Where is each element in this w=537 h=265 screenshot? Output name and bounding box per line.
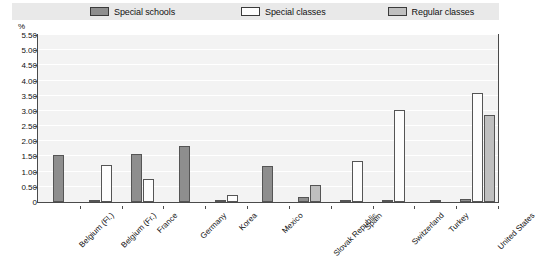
- y-axis-tick-label: 3.50: [7, 91, 37, 100]
- bar[interactable]: [430, 200, 441, 202]
- x-axis-category-label: Spain: [363, 211, 384, 232]
- bar[interactable]: [340, 200, 351, 202]
- bars-layer: [38, 35, 498, 202]
- bar-group: [122, 35, 164, 202]
- bar-group: [163, 35, 205, 202]
- x-axis-tick-mark: [205, 206, 206, 209]
- x-axis-category-label: Germany: [199, 211, 229, 241]
- x-axis-tick-mark: [163, 206, 164, 209]
- x-axis-tick-mark: [247, 206, 248, 209]
- x-axis-category-label: Switzerland: [411, 211, 447, 247]
- bar[interactable]: [298, 197, 309, 202]
- legend-swatch-icon: [241, 7, 260, 16]
- y-axis-tick-label: 5.50: [7, 31, 37, 40]
- legend-label: Special schools: [114, 7, 175, 17]
- bar[interactable]: [227, 195, 238, 202]
- x-axis-tick-mark: [498, 206, 499, 209]
- y-axis-tick-label: 3.00: [7, 106, 37, 115]
- bar[interactable]: [143, 179, 154, 202]
- x-axis-category-label: Belgium (Fl.): [77, 211, 115, 249]
- y-axis-tick-label: 4.50: [7, 61, 37, 70]
- y-axis-tick-label: 1.50: [7, 152, 37, 161]
- x-axis-category-label: Mexico: [280, 211, 304, 235]
- y-axis-tick-label: 4.00: [7, 76, 37, 85]
- bar-group: [247, 35, 289, 202]
- bar[interactable]: [394, 110, 405, 202]
- x-axis-tick-mark: [331, 206, 332, 209]
- y-axis-tick-label: 0: [7, 198, 37, 207]
- x-axis-tick-mark: [456, 206, 457, 209]
- y-axis-tick-label: 2.50: [7, 122, 37, 131]
- legend-label: Special classes: [265, 7, 326, 17]
- chart-legend: Special schoolsSpecial classesRegular cl…: [12, 3, 499, 20]
- bar-group: [38, 35, 80, 202]
- legend-entry[interactable]: Special classes: [241, 7, 326, 17]
- bar[interactable]: [262, 166, 273, 202]
- legend-swatch-icon: [388, 7, 407, 16]
- bar[interactable]: [472, 93, 483, 202]
- x-axis-category-label: Turkey: [447, 211, 470, 234]
- y-axis-tick-label: 0.50: [7, 182, 37, 191]
- y-axis-tick-label: 5.00: [7, 46, 37, 55]
- bar[interactable]: [484, 115, 495, 202]
- x-axis-category-label: United States: [496, 211, 536, 251]
- bar[interactable]: [179, 146, 190, 202]
- bar-group: [289, 35, 331, 202]
- bar-group: [331, 35, 373, 202]
- x-axis-category-label: Korea: [237, 211, 258, 232]
- legend-entry[interactable]: Regular classes: [388, 7, 475, 17]
- bar[interactable]: [89, 200, 100, 202]
- y-axis: 5.505.004.504.003.503.002.502.001.501.00…: [0, 34, 37, 204]
- y-axis-tick-label: 1.00: [7, 167, 37, 176]
- bar-group: [373, 35, 415, 202]
- bar[interactable]: [310, 185, 321, 202]
- legend-swatch-icon: [90, 7, 109, 16]
- legend-label: Regular classes: [412, 7, 475, 17]
- bar[interactable]: [460, 199, 471, 202]
- x-axis-category-label: Belgium (Fr.): [119, 211, 158, 250]
- bar[interactable]: [101, 165, 112, 202]
- bar[interactable]: [352, 161, 363, 202]
- bar-group: [205, 35, 247, 202]
- x-axis-categories: Belgium (Fl.)Belgium (Fr.)FranceGermanyK…: [38, 206, 498, 265]
- bar-group: [456, 35, 498, 202]
- x-axis-tick-mark: [373, 206, 374, 209]
- bar[interactable]: [53, 155, 64, 202]
- y-axis-tick-label: 2.00: [7, 137, 37, 146]
- bar[interactable]: [131, 154, 142, 202]
- legend-entry[interactable]: Special schools: [90, 7, 175, 17]
- bar[interactable]: [215, 200, 226, 202]
- x-axis-tick-mark: [289, 206, 290, 209]
- x-axis-tick-mark: [122, 206, 123, 209]
- x-axis-tick-mark: [80, 206, 81, 209]
- x-axis-category-label: France: [155, 211, 179, 235]
- bar-group: [414, 35, 456, 202]
- bar[interactable]: [382, 200, 393, 202]
- bar-group: [80, 35, 122, 202]
- x-axis-tick-mark: [414, 206, 415, 209]
